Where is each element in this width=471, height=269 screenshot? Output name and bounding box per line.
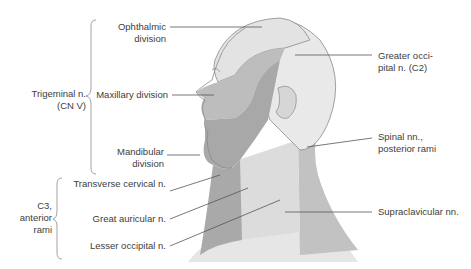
group-label-c3: C3, anterior rami bbox=[10, 200, 52, 236]
label-maxillary-division: Maxillary division bbox=[88, 89, 168, 101]
region-transverse-cervical bbox=[200, 160, 242, 255]
greater-occipital-line2: pital n. (C2) bbox=[378, 62, 433, 74]
label-lesser-occipital: Lesser occipital n. bbox=[60, 240, 166, 252]
label-greater-occipital: Greater occi- pital n. (C2) bbox=[378, 50, 433, 74]
c3-label: C3, bbox=[10, 200, 52, 212]
mandibular-line1: Mandibular bbox=[100, 146, 164, 158]
label-supraclavicular: Supraclavicular nn. bbox=[378, 206, 459, 218]
spinal-line2: posterior rami bbox=[378, 143, 436, 155]
c3-anterior-label: anterior bbox=[10, 212, 52, 224]
mandibular-line2: division bbox=[100, 158, 164, 170]
group-label-trigeminal: Trigeminal n. (CN V) bbox=[10, 88, 86, 112]
label-spinal-posterior-rami: Spinal nn., posterior rami bbox=[378, 131, 436, 155]
label-mandibular-division: Mandibular division bbox=[100, 146, 164, 170]
ophthalmic-line2: division bbox=[100, 33, 166, 45]
label-great-auricular: Great auricular n. bbox=[60, 213, 166, 225]
c3-rami-label: rami bbox=[10, 224, 52, 236]
spinal-line1: Spinal nn., bbox=[378, 131, 436, 143]
region-cervical-light bbox=[237, 140, 300, 240]
trigeminal-label: Trigeminal n. bbox=[10, 88, 86, 100]
label-ophthalmic-division: Ophthalmic division bbox=[100, 21, 166, 45]
label-transverse-cervical: Transverse cervical n. bbox=[60, 178, 166, 190]
trigeminal-cn-label: (CN V) bbox=[10, 100, 86, 112]
greater-occipital-line1: Greater occi- bbox=[378, 50, 433, 62]
ophthalmic-line1: Ophthalmic bbox=[100, 21, 166, 33]
head-neck-innervation-figure: Trigeminal n. (CN V) C3, anterior rami O… bbox=[0, 0, 471, 269]
